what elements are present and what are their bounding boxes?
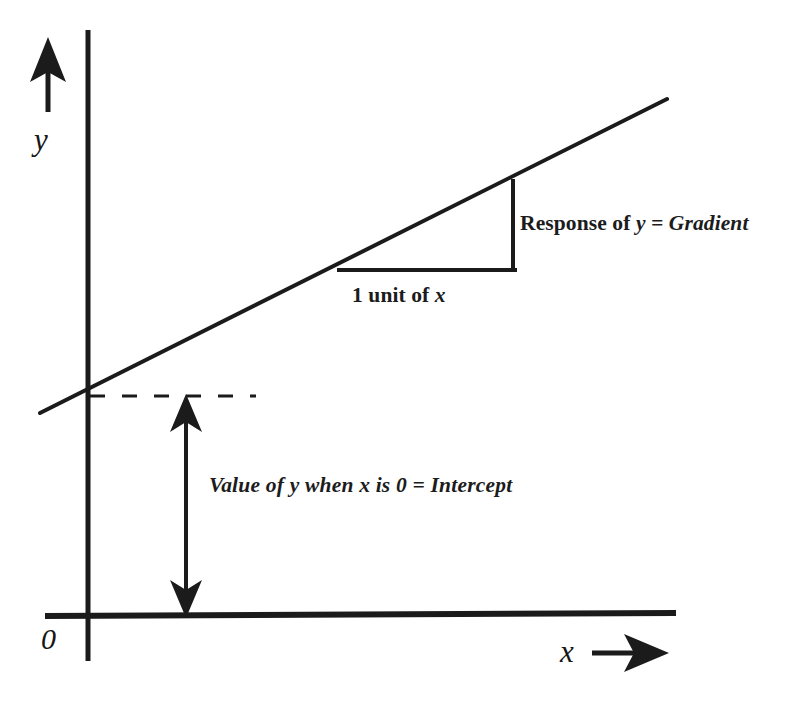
run-annotation: 1 unit of x — [352, 283, 446, 308]
origin-label: 0 — [41, 622, 56, 656]
graph-drawing — [0, 0, 785, 704]
double-headed-vertical-arrow-icon — [170, 394, 202, 618]
arrow-up-icon — [30, 37, 66, 112]
gradient-annotation-term: Gradient — [669, 211, 749, 235]
run-annotation-prefix: 1 unit of — [352, 283, 435, 307]
arrow-right-icon — [592, 634, 669, 672]
figure-canvas: y x 0 Response of y = Gradient 1 unit of… — [0, 0, 785, 704]
run-annotation-variable: x — [435, 283, 446, 307]
gradient-annotation-prefix: Response of — [520, 211, 636, 235]
x-axis-line — [45, 613, 676, 616]
y-axis-label: y — [34, 122, 48, 158]
gradient-annotation-equals: = — [646, 211, 669, 235]
gradient-annotation: Response of y = Gradient — [520, 211, 748, 236]
x-axis-label: x — [560, 634, 574, 670]
intercept-annotation: Value of y when x is 0 = Intercept — [209, 473, 512, 498]
regression-line — [40, 99, 667, 413]
gradient-annotation-variable: y — [636, 211, 646, 235]
